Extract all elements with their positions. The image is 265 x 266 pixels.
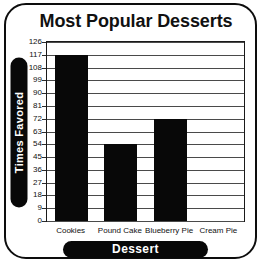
x-axis-tick-labels: CookiesPound CakeBlueberry PieCream Pie <box>46 225 245 239</box>
y-axis-tick-mark <box>42 93 46 94</box>
y-axis-tick-mark <box>42 170 46 171</box>
y-axis-tick-mark <box>42 119 46 120</box>
y-axis-tick-label: 126 <box>12 38 42 46</box>
y-axis-title: Times Favored <box>11 58 28 208</box>
y-axis-tick-mark <box>42 144 46 145</box>
y-axis-tick-mark <box>42 157 46 158</box>
x-axis-tick-label: Cream Pie <box>194 225 243 237</box>
y-axis-tick-mark <box>42 221 46 222</box>
x-axis-tick-label: Pound Cake <box>95 225 144 237</box>
gridline <box>47 221 244 222</box>
y-axis-tick-mark <box>42 68 46 69</box>
y-axis-tick-mark <box>42 80 46 81</box>
bar <box>154 119 187 221</box>
x-axis-tick-label: Blueberry Pie <box>145 225 194 237</box>
y-axis-tick-mark <box>42 132 46 133</box>
y-axis-tick-mark <box>42 195 46 196</box>
y-axis-tick-mark <box>42 106 46 107</box>
x-axis-tick-label: Cookies <box>46 225 95 237</box>
y-axis-tick-mark <box>42 183 46 184</box>
x-axis-title: Dessert <box>63 241 208 258</box>
y-axis-tick-mark <box>42 208 46 209</box>
bar <box>104 144 137 221</box>
y-axis-title-wrap: Times Favored <box>0 124 94 141</box>
chart-title: Most Popular Desserts <box>26 9 246 33</box>
y-axis-tick-mark <box>42 42 46 43</box>
y-axis-tick-mark <box>42 55 46 56</box>
y-axis-tick-label: 0 <box>12 217 42 225</box>
chart-screenshot: Most Popular Desserts 126117108999081726… <box>0 0 265 266</box>
